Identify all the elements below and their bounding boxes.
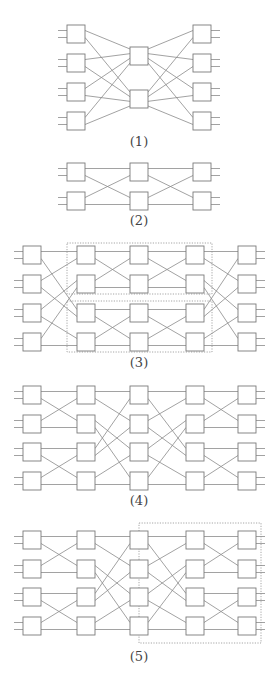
link-wire xyxy=(148,428,186,478)
switch-box xyxy=(238,531,256,549)
switch-box xyxy=(23,333,41,351)
switch-box xyxy=(23,415,41,433)
switch-box xyxy=(77,588,95,606)
link-wire xyxy=(204,317,238,339)
link-wire xyxy=(148,399,186,421)
switch-box xyxy=(130,415,148,433)
link-wire xyxy=(148,544,186,566)
switch-box xyxy=(77,304,95,322)
switch-box xyxy=(186,246,204,264)
switch-box xyxy=(130,588,148,606)
switch-box xyxy=(130,163,148,181)
diagram-label-4: (4) xyxy=(130,493,148,508)
switch-box xyxy=(186,560,204,578)
diagram-label-5: (5) xyxy=(130,649,148,664)
link-wire xyxy=(95,544,130,566)
switch-box xyxy=(130,192,148,210)
switch-box xyxy=(193,83,211,101)
switch-box xyxy=(186,386,204,404)
switch-box xyxy=(130,47,148,65)
switch-box xyxy=(77,386,95,404)
link-wire xyxy=(148,96,193,102)
switch-box xyxy=(186,588,204,606)
link-wire xyxy=(148,399,186,449)
switch-box xyxy=(193,112,211,130)
link-wire xyxy=(95,456,130,478)
link-wire xyxy=(95,399,130,421)
switch-box xyxy=(238,304,256,322)
switch-box xyxy=(186,275,204,293)
switch-box xyxy=(186,472,204,490)
link-wire xyxy=(148,54,193,60)
dotted-subnetwork-outlines xyxy=(67,243,261,643)
link-wire xyxy=(85,96,130,102)
switch-box xyxy=(130,246,148,264)
switch-box xyxy=(238,333,256,351)
switch-box xyxy=(23,588,41,606)
link-wire xyxy=(148,601,186,623)
switch-box xyxy=(130,90,148,108)
switch-box xyxy=(77,333,95,351)
link-wire xyxy=(148,573,186,623)
switch-box xyxy=(77,617,95,635)
link-wire xyxy=(148,544,186,594)
switch-box xyxy=(130,386,148,404)
switch-box xyxy=(130,472,148,490)
switch-box xyxy=(23,443,41,461)
switch-box xyxy=(186,531,204,549)
switch-box xyxy=(193,192,211,210)
switch-box xyxy=(238,386,256,404)
switch-box xyxy=(77,415,95,433)
switch-box xyxy=(130,333,148,351)
switch-box xyxy=(23,472,41,490)
switch-box xyxy=(67,192,85,210)
switch-boxes xyxy=(23,25,256,635)
link-wire xyxy=(85,54,130,60)
switch-box xyxy=(130,304,148,322)
switch-box xyxy=(23,275,41,293)
link-wire xyxy=(204,259,238,281)
switch-box xyxy=(238,443,256,461)
switch-box xyxy=(193,54,211,72)
switch-box xyxy=(130,617,148,635)
switch-box xyxy=(238,246,256,264)
switch-box xyxy=(130,275,148,293)
switch-box xyxy=(77,443,95,461)
switch-box xyxy=(186,333,204,351)
switch-box xyxy=(130,443,148,461)
link-wire xyxy=(41,317,77,339)
switch-box xyxy=(67,83,85,101)
switch-box xyxy=(77,531,95,549)
switch-box xyxy=(238,472,256,490)
switch-box xyxy=(23,246,41,264)
diagram-label-3: (3) xyxy=(130,355,148,370)
switch-box xyxy=(67,163,85,181)
switch-box xyxy=(186,617,204,635)
switch-box xyxy=(67,25,85,43)
switch-box xyxy=(77,246,95,264)
switch-box xyxy=(186,443,204,461)
switch-box xyxy=(238,415,256,433)
switch-box xyxy=(77,472,95,490)
switch-box xyxy=(238,588,256,606)
network-diagrams-figure xyxy=(0,0,278,684)
switch-box xyxy=(186,304,204,322)
switch-box xyxy=(67,112,85,130)
switch-box xyxy=(186,415,204,433)
switch-box xyxy=(238,560,256,578)
switch-box xyxy=(193,25,211,43)
switch-box xyxy=(238,617,256,635)
switch-box xyxy=(130,560,148,578)
switch-box xyxy=(23,531,41,549)
switch-box xyxy=(77,275,95,293)
switch-box xyxy=(23,386,41,404)
link-wire xyxy=(148,456,186,478)
link-wire xyxy=(95,601,130,623)
link-wire xyxy=(41,259,77,281)
diagram-label-1: (1) xyxy=(130,134,148,149)
switch-box xyxy=(77,560,95,578)
switch-box xyxy=(67,54,85,72)
switch-box xyxy=(193,163,211,181)
switch-box xyxy=(23,617,41,635)
switch-box xyxy=(23,560,41,578)
